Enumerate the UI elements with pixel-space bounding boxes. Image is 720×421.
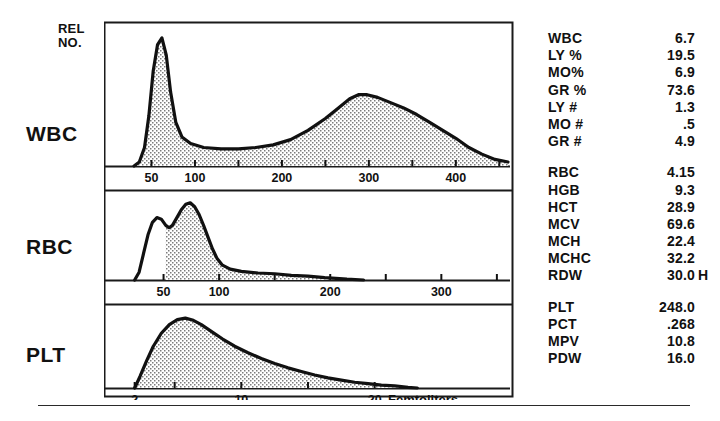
result-label: PCT [548, 316, 577, 333]
result-row: MCV69.6 [548, 216, 708, 233]
result-value: 32.2 [591, 250, 695, 267]
result-value: 4.9 [582, 133, 695, 150]
histograms-svg: 501002003004005010020030021020Femtoliter… [104, 18, 516, 400]
result-value: .268 [577, 316, 695, 333]
x-tick-label: 100 [185, 171, 206, 185]
result-label: LY # [548, 99, 577, 116]
result-value: 16.0 [582, 350, 695, 367]
x-tick-label: 100 [209, 285, 230, 299]
y-axis-label: REL NO. [58, 22, 85, 50]
result-row: LY #1.3 [548, 99, 708, 116]
x-tick-label: 400 [445, 171, 466, 185]
footer-rule [38, 405, 690, 406]
result-row: MCHC32.2 [548, 250, 708, 267]
x-tick-label: 20 [368, 393, 382, 400]
result-row: MO%6.9 [548, 64, 708, 81]
panel-label-plt: PLT [26, 343, 66, 367]
result-row: HGB9.3 [548, 182, 708, 199]
result-label: MPV [548, 333, 579, 350]
x-tick-label: 2 [131, 393, 138, 400]
result-row: MCH22.4 [548, 233, 708, 250]
x-tick-label: 10 [234, 393, 248, 400]
result-value: 4.15 [579, 164, 695, 181]
x-tick-label: 50 [145, 171, 159, 185]
x-tick-label: 200 [320, 285, 341, 299]
x-tick-label: 300 [431, 285, 452, 299]
hematology-report: REL NO. WBC RBC PLT 50100200300400501002… [0, 0, 720, 421]
result-row: GR %73.6 [548, 82, 708, 99]
result-row: PLT248.0 [548, 299, 708, 316]
histogram-panel-plt: 21020Femtoliters [104, 305, 512, 401]
result-label: PDW [548, 350, 582, 367]
result-group-rbc-indices: RBC4.15HGB9.3HCT28.9MCV69.6MCH22.4MCHC32… [548, 164, 708, 284]
result-row: PDW16.0 [548, 350, 708, 367]
x-axis-unit-label: Femtoliters [388, 392, 458, 400]
result-value: 10.8 [579, 333, 695, 350]
result-value: 248.0 [574, 299, 695, 316]
result-row: HCT28.9 [548, 199, 708, 216]
result-row: GR #4.9 [548, 133, 708, 150]
result-row: MO #.5 [548, 116, 708, 133]
result-value: 30.0 [582, 267, 695, 284]
histogram-block: REL NO. WBC RBC PLT 50100200300400501002… [0, 0, 520, 400]
histogram-fill-plt [135, 318, 418, 388]
result-label: HGB [548, 182, 580, 199]
histogram-panel-rbc: 50100200300 [104, 191, 512, 300]
result-label: HCT [548, 199, 578, 216]
result-value: 22.4 [581, 233, 695, 250]
result-label: WBC [548, 30, 582, 47]
result-label: RBC [548, 164, 579, 181]
result-value: 6.9 [584, 64, 695, 81]
x-tick-label: 50 [157, 285, 171, 299]
result-flag: H [695, 267, 708, 284]
result-label: MO # [548, 116, 583, 133]
result-value: .5 [583, 116, 695, 133]
result-value: 69.6 [580, 216, 695, 233]
result-value: 1.3 [577, 99, 695, 116]
x-tick-label: 200 [271, 171, 292, 185]
result-row: LY %19.5 [548, 47, 708, 64]
result-value: 28.9 [578, 199, 695, 216]
result-value: 19.5 [582, 47, 695, 64]
result-label: MCH [548, 233, 581, 250]
histogram-panel-wbc: 50100200300400 [104, 38, 510, 185]
histogram-fill-wbc [134, 38, 508, 166]
result-label: MCHC [548, 250, 591, 267]
result-label: LY % [548, 47, 582, 64]
histogram-fill-rbc [166, 203, 364, 280]
result-label: MCV [548, 216, 580, 233]
result-row: RDW30.0H [548, 267, 708, 284]
result-group-platelet-indices: PLT248.0PCT.268MPV10.8PDW16.0 [548, 299, 708, 368]
result-row: WBC6.7 [548, 30, 708, 47]
result-label: RDW [548, 267, 582, 284]
result-group-wbc-differential: WBC6.7LY %19.5MO%6.9GR %73.6LY #1.3MO #.… [548, 30, 708, 150]
result-row: RBC4.15 [548, 164, 708, 181]
numeric-results-panel: WBC6.7LY %19.5MO%6.9GR %73.6LY #1.3MO #.… [548, 30, 708, 381]
result-label: GR # [548, 133, 582, 150]
result-label: PLT [548, 299, 574, 316]
x-tick-label: 300 [358, 171, 379, 185]
result-value: 6.7 [582, 30, 695, 47]
panel-label-wbc: WBC [26, 122, 78, 146]
result-label: GR % [548, 82, 587, 99]
result-value: 73.6 [587, 82, 695, 99]
panel-label-rbc: RBC [26, 235, 73, 259]
result-value: 9.3 [580, 182, 695, 199]
result-row: MPV10.8 [548, 333, 708, 350]
result-row: PCT.268 [548, 316, 708, 333]
result-label: MO% [548, 64, 584, 81]
